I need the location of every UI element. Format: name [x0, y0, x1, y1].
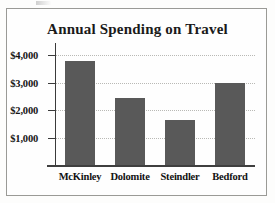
y-axis-tick-label: $3,000 [10, 77, 38, 88]
chart-title: Annual Spending on Travel [7, 21, 268, 38]
category-label: McKinley [59, 171, 102, 182]
figure-container: Annual Spending on Travel $1,000$2,000$3… [0, 0, 275, 203]
y-axis-tick: $1,000 [48, 138, 55, 139]
y-axis-line [55, 43, 56, 167]
y-axis-tick: $4,000 [48, 55, 55, 56]
x-axis-line [47, 165, 255, 167]
bar [215, 83, 245, 165]
y-axis-tick-label: $2,000 [10, 105, 38, 116]
chart-frame: Annual Spending on Travel $1,000$2,000$3… [6, 8, 267, 196]
y-axis-tick: $2,000 [48, 110, 55, 111]
gridline [56, 55, 255, 56]
y-axis-tick: $3,000 [48, 83, 55, 84]
y-axis-tick-label: $1,000 [10, 132, 38, 143]
plot-area: $1,000$2,000$3,000$4,000 McKinleyDolomit… [55, 47, 255, 165]
bar [65, 61, 95, 165]
bar [165, 120, 195, 165]
bar [115, 98, 145, 165]
y-axis-tick-label: $4,000 [10, 50, 38, 61]
category-label: Bedford [212, 171, 247, 182]
scan-artifact [36, 1, 58, 5]
category-label: Steindler [160, 171, 199, 182]
category-label: Dolomite [110, 171, 149, 182]
